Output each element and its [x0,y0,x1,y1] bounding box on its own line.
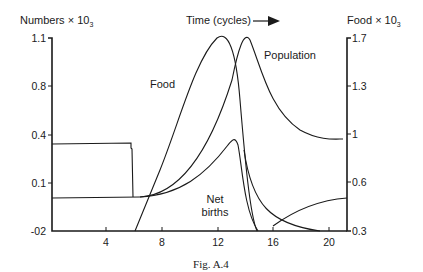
baseline-line [52,197,140,198]
svg-text:0.1: 0.1 [31,177,46,189]
svg-text:20: 20 [323,236,335,248]
recovery-curve [273,198,347,226]
food-decay-curve [244,150,320,231]
food-annotation: Food [150,78,175,90]
figure-caption: Fig. A.4 [193,258,229,270]
net-births-annotation: Netbirths [202,193,229,218]
svg-text:1.1: 1.1 [31,32,46,44]
svg-text:0.8: 0.8 [31,80,46,92]
left-and-bottom-axes [48,38,347,231]
x-ticks: 4 8 12 16 20 [103,227,335,248]
svg-text:1.7: 1.7 [352,32,367,44]
svg-text:8: 8 [159,236,165,248]
initial-block-line [52,143,133,197]
population-annotation: Population [264,49,316,61]
x-axis-label: Time (cycles) [186,14,251,26]
svg-text:0.4: 0.4 [31,129,46,141]
net-births-curve [140,140,258,231]
y-right-axis-label: Food × 103 [347,14,401,28]
svg-text:1.3: 1.3 [352,80,367,92]
svg-text:0.3: 0.3 [352,225,367,237]
svg-text:0.6: 0.6 [352,176,367,188]
arrow-right-icon [253,16,280,26]
svg-text:12: 12 [212,236,224,248]
y-right-ticks: 1.7 1.3 1 0.6 0.3 [347,32,367,237]
svg-text:-02: -02 [31,225,46,237]
food-curve [135,36,257,231]
y-left-ticks: 1.1 0.8 0.4 0.1 -02 [31,32,52,237]
svg-text:16: 16 [267,236,279,248]
y-left-axis-label: Numbers × 103 [20,14,93,28]
svg-text:4: 4 [103,236,109,248]
svg-text:1: 1 [352,128,358,140]
chart: Numbers × 103 Time (cycles) Food × 103 1… [0,0,423,272]
